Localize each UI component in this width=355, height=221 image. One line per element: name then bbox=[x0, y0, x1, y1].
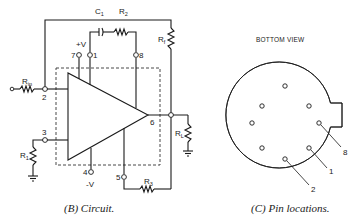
feedback-wire bbox=[45, 20, 171, 89]
diagram-canvas: C1 R2 Rf Rin R1 RL R3 +V 7 1 8 2 3 6 4 -… bbox=[0, 0, 355, 221]
c1-lead bbox=[90, 32, 99, 52]
pin5-terminal bbox=[122, 175, 127, 180]
pin8-label: 8 bbox=[139, 51, 144, 60]
pin2-callout: 2 bbox=[311, 185, 316, 194]
pin1-label: 1 bbox=[93, 51, 98, 60]
circuit-caption: (B) Circuit. bbox=[64, 202, 114, 215]
pin8-terminal bbox=[134, 53, 139, 58]
package-pin-1 bbox=[307, 146, 311, 150]
package-pin bbox=[307, 104, 311, 108]
ground-icon bbox=[28, 176, 38, 181]
output-node bbox=[169, 113, 174, 118]
package-pin bbox=[283, 84, 287, 88]
input-terminal bbox=[10, 87, 14, 91]
r3-lead-a bbox=[124, 180, 140, 189]
pin2-terminal bbox=[43, 87, 48, 92]
r2-lead bbox=[128, 32, 136, 52]
pin3-label: 3 bbox=[42, 128, 47, 137]
package-pin bbox=[250, 121, 254, 125]
pin3-terminal bbox=[43, 138, 48, 143]
pin5-label: 5 bbox=[116, 173, 121, 182]
pin4-terminal bbox=[89, 170, 94, 175]
bottom-view-title: BOTTOM VIEW bbox=[256, 36, 305, 43]
package-pin-2 bbox=[283, 157, 287, 161]
package-pin-8 bbox=[317, 121, 321, 125]
pin2-label: 2 bbox=[42, 93, 47, 102]
rin-label: Rin bbox=[22, 77, 32, 87]
package-bottom-outline bbox=[226, 62, 342, 168]
positive-supply-label: +V bbox=[76, 40, 87, 49]
pin7-label: 7 bbox=[71, 51, 76, 60]
pin-locations-caption: (C) Pin locations. bbox=[251, 202, 330, 215]
rl-resistor bbox=[185, 124, 191, 142]
package-pin bbox=[260, 104, 264, 108]
rl-label: RL bbox=[175, 129, 184, 139]
r3-label: R3 bbox=[144, 177, 153, 187]
r2-resistor bbox=[114, 29, 128, 35]
package-pin bbox=[260, 146, 264, 150]
pin-locations-diagram: BOTTOM VIEW 8 1 2 (C) Pin locations. bbox=[226, 36, 348, 215]
pin1-terminal bbox=[88, 53, 93, 58]
r1-label: R1 bbox=[20, 151, 29, 161]
pin1-callout: 1 bbox=[329, 167, 334, 176]
rf-resistor bbox=[168, 28, 174, 49]
c1-label: C1 bbox=[95, 7, 104, 17]
pin6-label: 6 bbox=[150, 118, 155, 127]
r2-label: R2 bbox=[119, 7, 128, 17]
ground-icon bbox=[183, 151, 193, 156]
pin7-terminal bbox=[77, 53, 82, 58]
rf-label: Rf bbox=[158, 35, 166, 45]
c1-plate-b bbox=[102, 28, 103, 36]
pin1-leader bbox=[311, 150, 327, 168]
r1-resistor bbox=[30, 147, 36, 165]
negative-supply-label: -V bbox=[86, 180, 95, 189]
r1-lead-top bbox=[33, 140, 43, 147]
pin8-callout: 8 bbox=[343, 148, 348, 157]
pin4-label: 4 bbox=[83, 168, 88, 177]
circuit-diagram: C1 R2 Rf Rin R1 RL R3 +V 7 1 8 2 3 6 4 -… bbox=[10, 7, 193, 215]
